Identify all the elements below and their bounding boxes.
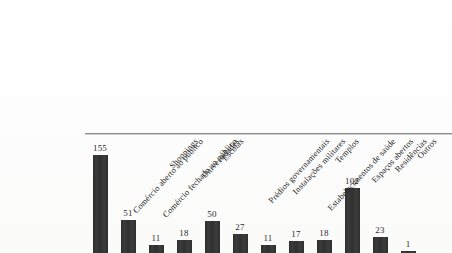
bar-rect[interactable] — [233, 234, 248, 253]
bar-value-label: 1 — [394, 239, 422, 249]
plot-area: 155 51 11 18 50 27 11 — [0, 0, 452, 253]
bar-value-label: 11 — [142, 233, 170, 243]
bar-rect[interactable] — [177, 240, 192, 253]
bar-rect[interactable] — [373, 237, 388, 253]
bar-group[interactable]: 51 — [114, 120, 142, 253]
bar-rect[interactable] — [261, 245, 276, 253]
bar-value-label: 17 — [282, 229, 310, 239]
bar-value-label: 18 — [310, 228, 338, 238]
bar-value-label: 18 — [170, 228, 198, 238]
bar-rect[interactable] — [149, 245, 164, 253]
bar-value-label: 11 — [254, 233, 282, 243]
bar-rect[interactable] — [205, 221, 220, 253]
bar-value-label: 155 — [86, 143, 114, 153]
bar-group[interactable]: 155 — [86, 120, 114, 253]
bar-rect[interactable] — [93, 155, 108, 253]
bar-rect[interactable] — [317, 240, 332, 253]
bar-chart-figure: 155 51 11 18 50 27 11 — [0, 0, 452, 253]
bar-value-label: 23 — [366, 225, 394, 235]
bar-rect[interactable] — [121, 220, 136, 253]
bar-rect[interactable] — [289, 241, 304, 253]
bar-value-label: 50 — [198, 209, 226, 219]
bar-rect[interactable] — [345, 188, 360, 253]
bar-value-label: 27 — [226, 222, 254, 232]
